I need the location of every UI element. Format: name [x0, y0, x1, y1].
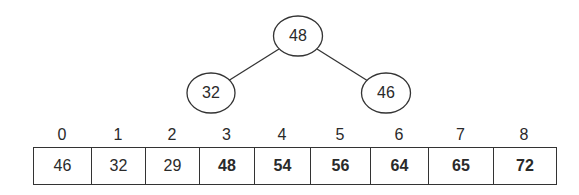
- array-index-label: 4: [254, 125, 310, 145]
- array-cell: 64: [371, 148, 429, 184]
- array-index-label: 8: [493, 125, 555, 145]
- array-index-label: 5: [310, 125, 370, 145]
- tree-node-root: 48: [273, 16, 323, 56]
- array-index-label: 0: [33, 125, 91, 145]
- array-cell: 65: [429, 148, 494, 184]
- heap-array: 463229485456646572: [33, 147, 557, 185]
- array-cell: 54: [255, 148, 311, 184]
- array-cell: 46: [34, 148, 92, 184]
- array-index-label: 3: [199, 125, 254, 145]
- tree-node-left: 32: [186, 73, 236, 113]
- array-cell: 56: [311, 148, 371, 184]
- array-cell: 32: [92, 148, 146, 184]
- array-index-label: 1: [91, 125, 145, 145]
- array-index-label: 7: [428, 125, 493, 145]
- tree-node-right: 46: [361, 73, 411, 113]
- array-index-label: 6: [370, 125, 428, 145]
- array-cell: 72: [494, 148, 556, 184]
- array-cell: 29: [146, 148, 200, 184]
- array-index-label: 2: [145, 125, 199, 145]
- array-cell: 48: [200, 148, 255, 184]
